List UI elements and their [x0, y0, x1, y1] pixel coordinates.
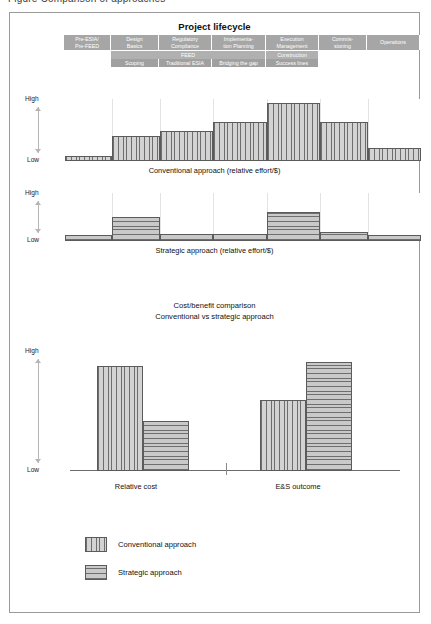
phase-cell-line: Scoping — [125, 60, 144, 66]
arrow-head-down-icon — [35, 459, 41, 463]
phase-cell: Operations — [367, 35, 420, 50]
bar — [65, 235, 112, 241]
group-divider-tick — [226, 463, 227, 475]
group-label-relative-cost: Relative cost — [70, 482, 202, 491]
phase-cell-line: Success lines — [276, 60, 308, 66]
arrow-head-up-icon — [35, 201, 41, 205]
bar — [368, 235, 421, 241]
costbenefit-axis-arrow — [34, 359, 43, 463]
legend-swatch — [85, 565, 107, 580]
bar — [65, 156, 112, 161]
caption-text: Figure Comparison of approaches — [8, 0, 165, 4]
bar — [267, 212, 320, 241]
costbenefit-title: Cost/benefit comparison Conventional vs … — [10, 301, 419, 322]
bar — [160, 131, 213, 161]
costbenefit-axis-high: High — [25, 347, 39, 354]
bar — [306, 362, 352, 471]
costbenefit-title-line1: Cost/benefit comparison — [10, 301, 419, 312]
costbenefit-plot-area — [70, 351, 400, 471]
bar — [368, 148, 421, 161]
conventional-axis-arrow — [34, 107, 43, 153]
bar — [160, 234, 213, 241]
phase-cell: Traditional ESIA — [159, 59, 212, 67]
phase-cell: Bridging the gap — [212, 59, 266, 67]
arrow-head-up-icon — [35, 359, 41, 363]
phase-cell: Implementa-tion Planning — [212, 35, 266, 50]
phase-cell: ExecutionManagement — [266, 35, 319, 50]
costbenefit-title-line2: Conventional vs strategic approach — [10, 312, 419, 323]
legend-label: Conventional approach — [118, 540, 196, 549]
phase-cell: Construction — [266, 51, 319, 59]
phase-cell: DesignBasics — [111, 35, 159, 50]
conventional-axis-high: High — [25, 95, 39, 102]
bar — [143, 421, 189, 471]
strategic-plot-area — [65, 193, 421, 241]
bar — [267, 103, 320, 161]
cut-off-caption: Figure Comparison of approaches — [0, 0, 431, 9]
arrow-line — [38, 107, 39, 153]
phase-cell: Success lines — [266, 59, 319, 67]
arrow-head-down-icon — [35, 149, 41, 153]
conventional-caption: Conventional approach (relative effort/$… — [10, 166, 419, 175]
arrow-head-down-icon — [35, 229, 41, 233]
strategic-axis-arrow — [34, 201, 43, 233]
strategic-caption: Strategic approach (relative effort/$) — [10, 246, 419, 255]
bar — [213, 122, 267, 161]
costbenefit-axis-low: Low — [27, 466, 39, 473]
phase-cell-line: FEED — [181, 52, 195, 58]
bar — [260, 400, 306, 471]
legend-swatch — [85, 537, 107, 552]
phase-cell-line: Construction — [277, 52, 307, 58]
phase-cell-line: Operations — [380, 39, 406, 45]
phase-cell-line: Basics — [127, 43, 143, 49]
strategic-axis-low: Low — [27, 236, 39, 243]
phase-cell-line: Compliance — [171, 43, 199, 49]
phase-cell: Commis-sioning — [319, 35, 367, 50]
strategic-axis-high: High — [25, 189, 39, 196]
phase-cell-line: Traditional ESIA — [166, 60, 204, 66]
bar — [112, 136, 160, 161]
lifecycle-title: Project lifecycle — [10, 21, 419, 32]
phase-cell-line: Pre-FEED — [75, 43, 99, 49]
phase-cell: Scoping — [111, 59, 159, 67]
phase-cell-line: Bridging the gap — [219, 60, 258, 66]
bar — [213, 234, 267, 241]
conventional-axis-low: Low — [27, 156, 39, 163]
arrow-head-up-icon — [35, 107, 41, 111]
group-label-es-outcome: E&S outcome — [232, 482, 364, 491]
legend-label: Strategic approach — [118, 568, 182, 577]
phase-cell-line: Management — [277, 43, 308, 49]
conventional-plot-area — [65, 99, 421, 161]
bar — [112, 217, 160, 241]
phase-cell: RegulatoryCompliance — [159, 35, 212, 50]
bar — [320, 122, 368, 161]
gridline — [368, 193, 369, 241]
figure-frame: Project lifecycle Pre-ESIA/Pre-FEEDDesig… — [9, 12, 420, 613]
phase-cell-line: tion Planning — [223, 43, 254, 49]
bar — [320, 232, 368, 241]
phase-cell-line: sioning — [334, 43, 351, 49]
arrow-line — [38, 359, 39, 463]
phase-cell: Pre-ESIA/Pre-FEED — [64, 35, 111, 50]
bar — [97, 366, 143, 471]
phase-cell: FEED — [111, 51, 266, 59]
